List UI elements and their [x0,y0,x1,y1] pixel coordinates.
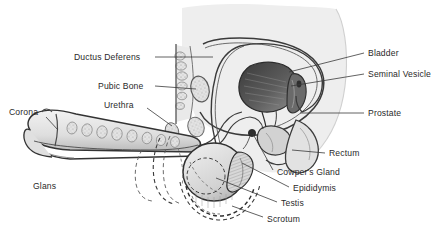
label-bladder: Bladder [368,48,399,58]
label-pubic-bone: Pubic Bone [98,81,143,91]
label-rectum: Rectum [329,148,360,158]
label-scrotum: Scrotum [267,214,300,224]
label-cowpers-gland: Cowper's Gland [277,167,340,177]
label-corona: Corona [9,107,38,117]
label-glans: Glans [33,181,56,191]
label-urethra: Urethra [104,100,134,110]
label-seminal-vesicle: Seminal Vesicle [368,69,431,79]
anatomy-figure: Ductus DeferensPubic BoneUrethraCoronaGl… [0,0,448,242]
label-epididymis: Epididymis [293,183,336,193]
label-prostate: Prostate [368,108,401,118]
leader-urethra [147,108,172,126]
label-testis: Testis [281,198,304,208]
label-ductus-deferens: Ductus Deferens [74,52,140,62]
anatomy-illustration [0,0,448,242]
